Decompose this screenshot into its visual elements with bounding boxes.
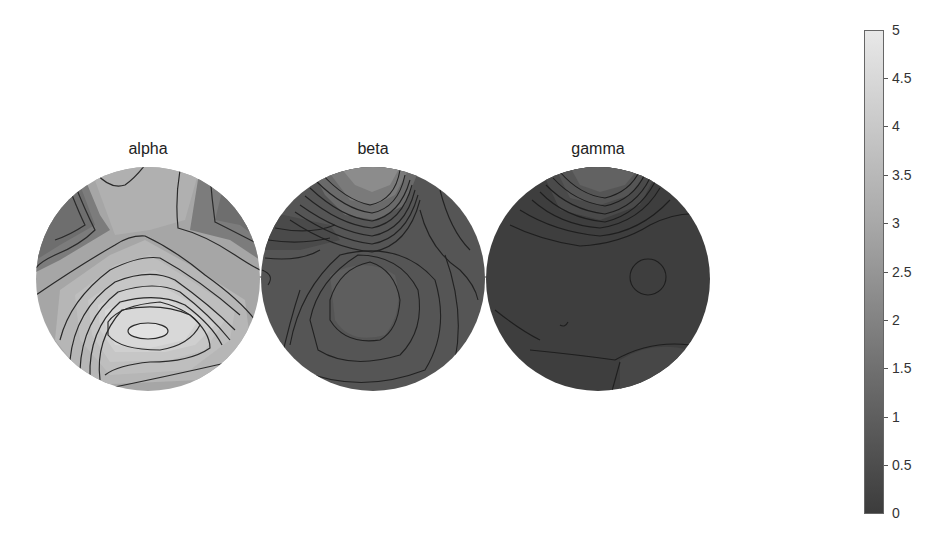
gamma-topomap [486,167,710,391]
colorbar-tick [884,126,888,127]
colorbar-label: 4.5 [892,70,911,86]
beta-panel-title: beta [313,140,433,158]
colorbar-label: 3 [892,215,900,231]
colorbar-tick [884,465,888,466]
colorbar-label: 1.5 [892,360,911,376]
colorbar-label: 1 [892,409,900,425]
colorbar-label: 2 [892,312,900,328]
colorbar-tick [884,78,888,79]
colorbar-label: 0.5 [892,457,911,473]
colorbar-label: 4 [892,118,900,134]
colorbar-label: 2.5 [892,264,911,280]
colorbar-label: 3.5 [892,167,911,183]
alpha-panel-title: alpha [88,140,208,158]
alpha-topomap [36,165,260,391]
colorbar-tick [884,223,888,224]
colorbar-label: 5 [892,22,900,38]
colorbar-tick [884,417,888,418]
colorbar-tick [884,272,888,273]
gamma-panel-title: gamma [538,140,658,158]
colorbar-tick [884,368,888,369]
beta-topomap [261,167,485,392]
colorbar-tick [884,175,888,176]
colorbar-label: 0 [892,505,900,521]
colorbar [864,30,884,514]
colorbar-tick [884,320,888,321]
topoplot-canvas [0,0,944,547]
